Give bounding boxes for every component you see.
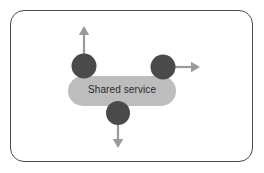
node-bottom[interactable] — [106, 101, 130, 125]
diagram-canvas: Shared service — [0, 0, 264, 173]
arrow-up-head — [79, 26, 89, 35]
node-right[interactable] — [151, 55, 176, 80]
shared-service-label: Shared service — [88, 84, 156, 95]
node-top-left[interactable] — [72, 54, 97, 79]
arrow-down-head — [113, 139, 123, 148]
arrow-right-head — [191, 62, 200, 72]
